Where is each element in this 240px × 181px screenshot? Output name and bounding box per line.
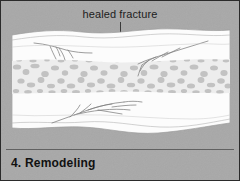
annotation-label-healed-fracture: healed fracture bbox=[1, 8, 239, 20]
caption-divider bbox=[6, 149, 234, 150]
figure-caption: 4. Remodeling bbox=[11, 156, 96, 170]
bone-cross-section-svg bbox=[12, 27, 230, 137]
figure-panel: healed fracture bbox=[0, 0, 240, 181]
bone-illustration bbox=[12, 27, 230, 137]
